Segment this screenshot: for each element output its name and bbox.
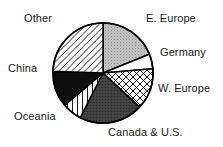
slice-label-canada-us: Canada & U.S. <box>108 126 183 138</box>
slice-label-germany: Germany <box>160 46 206 58</box>
pie-chart: Other E. Europe Germany W. Europe Canada… <box>0 0 223 147</box>
slice-label-oceania: Oceania <box>14 110 56 122</box>
slice-label-e-europe: E. Europe <box>146 12 196 24</box>
slice-label-w-europe: W. Europe <box>158 82 210 94</box>
slice-label-other: Other <box>24 12 52 24</box>
slice-label-china: China <box>8 62 37 74</box>
